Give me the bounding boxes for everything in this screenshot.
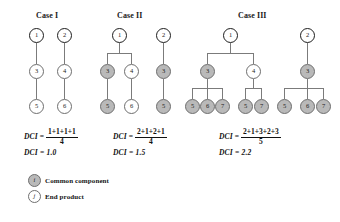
- edge-case2-7: [163, 79, 164, 99]
- node-case3-7-9: 7: [254, 99, 269, 114]
- dci-result-case1: DCI = 1.0: [24, 148, 57, 157]
- node-case2-6-6: 6: [124, 99, 139, 114]
- dci-result-case2: DCI = 1.5: [113, 148, 146, 157]
- dci-numerator: 2+1+3+2+3: [241, 128, 281, 137]
- node-case3-5-8: 5: [238, 99, 253, 114]
- node-case3-3-2: 3: [200, 64, 215, 79]
- case-title-3: Case III: [238, 11, 267, 20]
- equals-sign: =: [233, 132, 241, 141]
- node-case3-1-0: 1: [223, 28, 238, 43]
- edge-case1-1: [64, 43, 65, 64]
- edge-case3-7: [207, 88, 208, 99]
- node-case3-6-6: 6: [200, 99, 215, 114]
- edge-case3-8: [222, 88, 223, 99]
- node-case3-7-7: 7: [215, 99, 230, 114]
- node-case3-2-1: 2: [300, 28, 315, 43]
- edge-case3-6: [192, 88, 193, 99]
- legend-end-product: jEnd product: [28, 190, 84, 203]
- node-case1-3-2: 3: [29, 64, 44, 79]
- node-case2-2-1: 2: [156, 28, 171, 43]
- edge-case3-16: [284, 88, 285, 99]
- edge-case3-11: [245, 88, 246, 99]
- dci-numerator: 1+1+1+1: [46, 128, 78, 137]
- dci-formula-case1: DCI = 1+1+1+14: [24, 128, 78, 147]
- edge-case3-10: [245, 88, 261, 89]
- legend-label: Common component: [45, 177, 109, 185]
- node-case3-7-12: 7: [316, 99, 331, 114]
- end-product-icon: j: [28, 190, 41, 203]
- dci-formula-label: DCI: [219, 132, 233, 141]
- node-case2-3-4: 3: [156, 64, 171, 79]
- dci-fraction: 2+1+3+2+35: [241, 128, 281, 147]
- node-case1-4-3: 4: [57, 64, 72, 79]
- equals-sign: =: [127, 132, 135, 141]
- edge-case3-12: [261, 88, 262, 99]
- dci-formula-case2: DCI = 2+1+2+14: [113, 128, 167, 147]
- node-case3-5-5: 5: [185, 99, 200, 114]
- edge-case2-6: [163, 43, 164, 64]
- edge-case3-1: [207, 53, 254, 54]
- dci-fraction: 1+1+1+14: [46, 128, 78, 147]
- edge-case1-2: [36, 79, 37, 99]
- edge-case3-14: [307, 79, 308, 88]
- equals-sign: =: [38, 132, 46, 141]
- edge-case3-9: [253, 79, 254, 88]
- dci-formula-label: DCI: [113, 132, 127, 141]
- dci-denominator: 5: [241, 138, 281, 147]
- edge-case2-5: [131, 79, 132, 99]
- edge-case3-3: [253, 53, 254, 64]
- case-title-1: Case I: [36, 11, 58, 20]
- legend-common-component: iCommon component: [28, 174, 109, 187]
- node-case1-5-4: 5: [29, 99, 44, 114]
- node-case2-3-2: 3: [100, 64, 115, 79]
- edge-case3-17: [307, 88, 308, 99]
- node-case3-6-11: 6: [300, 99, 315, 114]
- node-case3-5-10: 5: [277, 99, 292, 114]
- edge-case3-0: [230, 43, 231, 53]
- dci-denominator: 4: [135, 138, 167, 147]
- case-title-2: Case II: [117, 11, 142, 20]
- edge-case2-2: [107, 53, 108, 64]
- edge-case2-3: [131, 53, 132, 64]
- edge-case3-2: [207, 53, 208, 64]
- edge-case3-15: [284, 88, 323, 89]
- edge-case1-0: [36, 43, 37, 64]
- edge-case3-13: [307, 43, 308, 64]
- dci-formula-label: DCI: [24, 132, 38, 141]
- node-case1-2-1: 2: [57, 28, 72, 43]
- node-case1-1-0: 1: [29, 28, 44, 43]
- node-case2-5-7: 5: [156, 99, 171, 114]
- edge-case2-4: [107, 79, 108, 99]
- dci-numerator: 2+1+2+1: [135, 128, 167, 137]
- legend-label: End product: [45, 193, 84, 201]
- node-case2-1-0: 1: [112, 28, 127, 43]
- dci-denominator: 4: [46, 138, 78, 147]
- node-case1-6-5: 6: [57, 99, 72, 114]
- dci-result-case3: DCI = 2.2: [219, 148, 252, 157]
- common-component-icon: i: [28, 174, 41, 187]
- node-case3-3-4: 3: [300, 64, 315, 79]
- edge-case2-0: [119, 43, 120, 53]
- dci-cases-figure: Case I123456DCI = 1+1+1+14DCI = 1.0Case …: [0, 0, 340, 222]
- edge-case3-18: [323, 88, 324, 99]
- dci-fraction: 2+1+2+14: [135, 128, 167, 147]
- edge-case3-4: [207, 79, 208, 88]
- dci-formula-case3: DCI = 2+1+3+2+35: [219, 128, 281, 147]
- edge-case1-3: [64, 79, 65, 99]
- node-case2-4-3: 4: [124, 64, 139, 79]
- node-case3-4-3: 4: [246, 64, 261, 79]
- edge-case2-1: [107, 53, 132, 54]
- node-case2-5-5: 5: [100, 99, 115, 114]
